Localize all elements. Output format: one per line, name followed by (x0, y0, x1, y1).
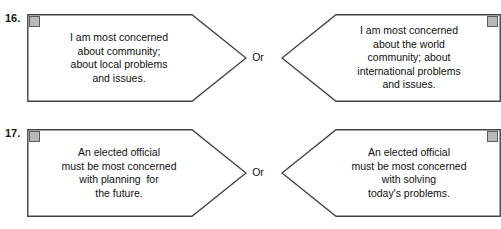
option-left[interactable]: An elected official must be most concern… (27, 129, 247, 217)
statement-line: An elected official (368, 146, 450, 160)
statement-line: about local problems (71, 58, 168, 72)
option-left[interactable]: I am most concerned about community; abo… (27, 14, 247, 102)
statement-text: An elected official must be most concern… (39, 129, 199, 217)
statement-line: and issues. (92, 72, 145, 86)
question-row: 17. An elected official must be most con… (0, 115, 487, 229)
statement-line: about community; (78, 45, 161, 59)
statement-line: the future. (95, 187, 142, 201)
option-right[interactable]: I am most concerned about the world comm… (281, 14, 501, 102)
statement-line: I am most concerned (360, 24, 458, 38)
statement-line: I am most concerned (70, 31, 168, 45)
statement-line: and issues. (382, 78, 435, 92)
statement-line: community; about (368, 51, 451, 65)
item-number: 17. (5, 127, 20, 139)
item-number: 16. (5, 12, 20, 24)
statement-line: An elected official (78, 146, 160, 160)
statement-line: with planning for (79, 173, 158, 187)
statement-line: about the world (373, 38, 445, 52)
statement-line: international problems (357, 65, 460, 79)
statement-text: I am most concerned about the world comm… (329, 14, 489, 102)
statement-text: An elected official must be most concern… (329, 129, 489, 217)
question-row: 16. I am most concerned about community;… (0, 0, 487, 115)
or-connector-label: Or (243, 51, 273, 63)
statement-line: must be most concerned (62, 160, 177, 174)
option-right[interactable]: An elected official must be most concern… (281, 129, 501, 217)
or-connector-label: Or (243, 166, 273, 178)
statement-text: I am most concerned about community; abo… (39, 14, 199, 102)
statement-line: with solving (382, 173, 436, 187)
statement-line: today's problems. (368, 187, 450, 201)
statement-line: must be most concerned (352, 160, 467, 174)
